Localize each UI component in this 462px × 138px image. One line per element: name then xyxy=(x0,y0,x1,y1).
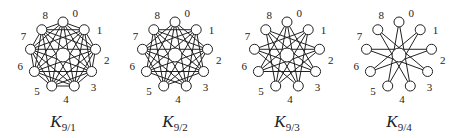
node-label: 5 xyxy=(258,85,264,97)
node-label: 5 xyxy=(34,85,40,97)
node-5 xyxy=(159,81,169,91)
node-label: 5 xyxy=(146,85,152,97)
hub-node xyxy=(392,48,406,62)
node-7 xyxy=(250,44,260,54)
node-label: 0 xyxy=(72,7,78,19)
node-label: 4 xyxy=(399,93,405,105)
node-3 xyxy=(311,67,321,77)
node-2 xyxy=(426,44,436,54)
node-4 xyxy=(405,81,415,91)
node-label: 6 xyxy=(242,60,248,72)
node-2 xyxy=(202,44,212,54)
node-label: 6 xyxy=(130,60,136,72)
caption-k9-1: K9/1 xyxy=(50,112,75,133)
node-3 xyxy=(423,67,433,77)
node-6 xyxy=(29,67,39,77)
node-8 xyxy=(149,25,159,35)
node-8 xyxy=(37,25,47,35)
node-label: 3 xyxy=(315,81,321,93)
node-label: 3 xyxy=(427,81,433,93)
node-3 xyxy=(87,67,97,77)
caption-k9-3: K9/3 xyxy=(274,112,299,133)
node-0 xyxy=(394,17,404,27)
graph-k9-2: 012345678 xyxy=(130,7,222,105)
node-1 xyxy=(79,25,89,35)
node-label: 1 xyxy=(433,24,439,36)
node-label: 2 xyxy=(104,54,110,66)
node-4 xyxy=(181,81,191,91)
node-2 xyxy=(314,44,324,54)
hub-node xyxy=(168,48,182,62)
node-label: 4 xyxy=(175,93,181,105)
node-6 xyxy=(141,67,151,77)
caption-k9-2: K9/2 xyxy=(162,112,187,133)
node-label: 4 xyxy=(287,93,293,105)
node-1 xyxy=(415,25,425,35)
node-label: 7 xyxy=(21,30,27,42)
node-label: 6 xyxy=(354,60,360,72)
graph-k9-4: 012345678 xyxy=(354,7,446,105)
node-label: 1 xyxy=(209,24,215,36)
node-0 xyxy=(282,17,292,27)
node-2 xyxy=(90,44,100,54)
node-label: 0 xyxy=(408,7,414,19)
node-label: 3 xyxy=(91,81,97,93)
node-8 xyxy=(261,25,271,35)
node-7 xyxy=(26,44,36,54)
node-label: 0 xyxy=(184,7,190,19)
node-label: 3 xyxy=(203,81,209,93)
node-label: 5 xyxy=(370,85,376,97)
node-label: 8 xyxy=(154,9,160,21)
node-label: 4 xyxy=(63,93,69,105)
node-label: 8 xyxy=(378,9,384,21)
node-label: 8 xyxy=(42,9,48,21)
graph-k9-3: 012345678 xyxy=(242,7,334,105)
graph-k9-1: 012345678 xyxy=(18,7,110,105)
node-0 xyxy=(170,17,180,27)
node-1 xyxy=(303,25,313,35)
node-4 xyxy=(69,81,79,91)
node-7 xyxy=(138,44,148,54)
node-label: 2 xyxy=(328,54,334,66)
node-label: 7 xyxy=(357,30,363,42)
node-label: 1 xyxy=(321,24,327,36)
node-label: 7 xyxy=(133,30,139,42)
node-1 xyxy=(191,25,201,35)
node-label: 6 xyxy=(18,60,24,72)
hub-node xyxy=(280,48,294,62)
node-label: 8 xyxy=(266,9,272,21)
node-8 xyxy=(373,25,383,35)
node-5 xyxy=(47,81,57,91)
node-6 xyxy=(365,67,375,77)
node-4 xyxy=(293,81,303,91)
node-label: 2 xyxy=(216,54,222,66)
node-5 xyxy=(383,81,393,91)
node-7 xyxy=(362,44,372,54)
node-label: 7 xyxy=(245,30,251,42)
node-6 xyxy=(253,67,263,77)
node-0 xyxy=(58,17,68,27)
node-label: 1 xyxy=(97,24,103,36)
node-5 xyxy=(271,81,281,91)
node-3 xyxy=(199,67,209,77)
node-label: 0 xyxy=(296,7,302,19)
caption-k9-4: K9/4 xyxy=(386,112,411,133)
hub-node xyxy=(56,48,70,62)
node-label: 2 xyxy=(440,54,446,66)
